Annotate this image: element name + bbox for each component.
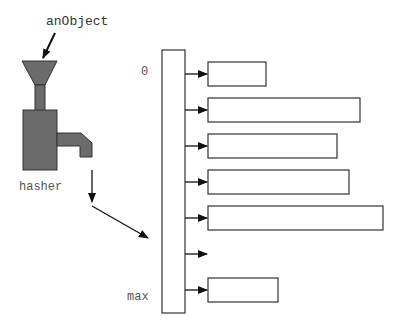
hasher-machine-icon <box>22 61 92 170</box>
bucket-entry <box>208 206 383 230</box>
bucket-array <box>162 50 185 313</box>
bucket-entry <box>208 278 278 302</box>
input-label: anObject <box>46 14 108 29</box>
index-min-label: 0 <box>141 65 148 79</box>
bucket-entry <box>208 62 266 86</box>
hasher-label: hasher <box>19 180 62 194</box>
input-arrow-icon <box>43 33 55 58</box>
index-max-label: max <box>127 290 149 304</box>
bucket-list <box>185 62 383 302</box>
index-arrow-icon <box>92 206 148 238</box>
bucket-entry <box>208 134 337 158</box>
bucket-entry <box>208 170 349 194</box>
bucket-entry <box>208 98 360 122</box>
hash-table-diagram: anObject hasher 0 max <box>0 0 404 330</box>
